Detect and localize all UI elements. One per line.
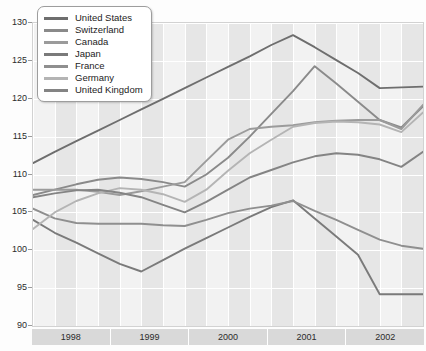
x-axis-year-label: 2000 bbox=[189, 329, 268, 345]
y-axis-tick-mark bbox=[28, 287, 32, 288]
y-axis-tick-mark bbox=[28, 211, 32, 212]
legend-color-swatch bbox=[44, 53, 68, 56]
legend-item-label: United Kingdom bbox=[75, 85, 143, 95]
legend-color-swatch bbox=[44, 65, 68, 68]
y-axis-tick-label: 100 bbox=[0, 245, 27, 254]
series-line bbox=[33, 112, 423, 229]
y-axis-tick-label: 90 bbox=[0, 321, 27, 330]
legend-item-label: United States bbox=[75, 13, 132, 23]
y-axis-tick-label: 115 bbox=[0, 132, 27, 141]
y-axis-tick-label: 125 bbox=[0, 56, 27, 65]
x-axis-year-label: 2001 bbox=[268, 329, 347, 345]
y-axis-tick-mark bbox=[28, 174, 32, 175]
x-axis-year-label: 1998 bbox=[32, 329, 111, 345]
y-axis-tick-label: 95 bbox=[0, 283, 27, 292]
vertical-gridline bbox=[423, 23, 424, 326]
legend-color-swatch bbox=[44, 77, 68, 80]
line-chart: 9095100105110115120125130 19981999200020… bbox=[0, 0, 426, 351]
legend-item-label: Japan bbox=[75, 49, 101, 59]
y-axis-tick-mark bbox=[28, 22, 32, 23]
legend-item[interactable]: Switzerland bbox=[44, 24, 143, 36]
legend-color-swatch bbox=[44, 17, 68, 20]
legend-color-swatch bbox=[44, 89, 68, 92]
legend-item[interactable]: Germany bbox=[44, 72, 143, 84]
legend-item[interactable]: United States bbox=[44, 12, 143, 24]
legend-item[interactable]: Canada bbox=[44, 36, 143, 48]
y-axis-tick-label: 120 bbox=[0, 94, 27, 103]
legend-item-label: Germany bbox=[75, 73, 114, 83]
x-axis-year-label: 2002 bbox=[346, 329, 424, 345]
legend-item-label: France bbox=[75, 61, 105, 71]
legend-item[interactable]: Japan bbox=[44, 48, 143, 60]
series-line bbox=[33, 200, 423, 294]
legend-item[interactable]: France bbox=[44, 60, 143, 72]
legend-item-label: Switzerland bbox=[75, 25, 124, 35]
y-axis-tick-label: 110 bbox=[0, 170, 27, 179]
legend-item[interactable]: United Kingdom bbox=[44, 84, 143, 96]
chart-legend: United StatesSwitzerlandCanadaJapanFranc… bbox=[37, 6, 152, 102]
legend-color-swatch bbox=[44, 41, 68, 44]
y-axis-tick-label: 130 bbox=[0, 18, 27, 27]
y-axis-tick-mark bbox=[28, 325, 32, 326]
x-axis-year-label: 1999 bbox=[111, 329, 190, 345]
y-axis-tick-mark bbox=[28, 98, 32, 99]
y-axis-tick-mark bbox=[28, 60, 32, 61]
x-axis: 19981999200020012002 bbox=[32, 329, 424, 345]
y-axis-tick-label: 105 bbox=[0, 207, 27, 216]
y-axis-tick-mark bbox=[28, 249, 32, 250]
legend-item-label: Canada bbox=[75, 37, 108, 47]
y-axis-tick-mark bbox=[28, 136, 32, 137]
series-line bbox=[33, 201, 423, 249]
legend-color-swatch bbox=[44, 29, 68, 32]
